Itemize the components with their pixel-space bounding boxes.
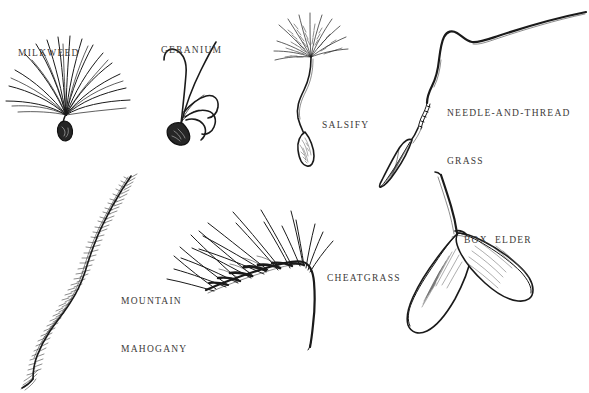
mountain-mahogany-seed-drawing — [21, 174, 137, 390]
label-milkweed: MILKWEED — [18, 13, 80, 93]
label-mountain-mahogany-line-1: MOUNTAIN — [121, 293, 187, 309]
seed-dispersal-illustration-plate: .ink{fill:none;stroke:#1a1a1a;stroke-lin… — [0, 0, 589, 393]
label-needle-and-thread-grass-line-1: NEEDLE-AND-THREAD — [447, 105, 571, 121]
label-salsify-line-1: SALSIFY — [322, 117, 369, 133]
label-needle-and-thread-grass: NEEDLE-AND-THREAD GRASS — [447, 73, 571, 201]
label-box-elder: BOX ELDER — [464, 200, 532, 280]
cheatgrass-seed-drawing — [167, 210, 333, 350]
label-geranium-line-1: GERANIUM — [161, 42, 222, 58]
label-mountain-mahogany-line-2: MAHOGANY — [121, 341, 187, 357]
label-cheatgrass-line-1: CHEATGRASS — [327, 270, 401, 286]
label-mountain-mahogany: MOUNTAIN MAHOGANY — [121, 261, 187, 389]
label-salsify: SALSIFY — [322, 85, 369, 165]
label-milkweed-line-1: MILKWEED — [18, 45, 80, 61]
label-geranium: GERANIUM — [161, 10, 222, 90]
label-needle-and-thread-grass-line-2: GRASS — [447, 153, 571, 169]
label-box-elder-line-1: BOX ELDER — [464, 232, 532, 248]
label-cheatgrass: CHEATGRASS — [327, 238, 401, 318]
